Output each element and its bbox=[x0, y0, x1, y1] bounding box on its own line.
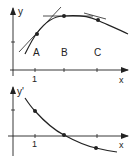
label-b: B bbox=[61, 47, 68, 58]
bottom-x-tick-label: 1 bbox=[32, 139, 37, 149]
derivative-point-c bbox=[94, 146, 98, 150]
top-x-tick-label: 1 bbox=[32, 74, 37, 84]
derivative-curve bbox=[25, 98, 117, 152]
derivative-point-a bbox=[33, 109, 37, 113]
point-a bbox=[35, 32, 39, 36]
tangent-a bbox=[19, 7, 61, 52]
top-y-label: y bbox=[18, 6, 23, 17]
top-curve bbox=[25, 15, 128, 54]
bottom-graph: y' x 1 bbox=[8, 86, 128, 156]
point-b bbox=[62, 14, 66, 18]
label-a: A bbox=[33, 47, 40, 58]
label-c: C bbox=[94, 47, 101, 58]
bottom-x-label: x bbox=[119, 140, 124, 150]
derivative-diagram: y x 1 A B C y' x 1 bbox=[0, 0, 140, 166]
top-x-label: x bbox=[119, 75, 124, 85]
top-graph: y x 1 A B C bbox=[10, 6, 128, 85]
point-c bbox=[96, 18, 100, 22]
derivative-point-b bbox=[62, 133, 66, 137]
bottom-y-label: y' bbox=[17, 86, 24, 97]
